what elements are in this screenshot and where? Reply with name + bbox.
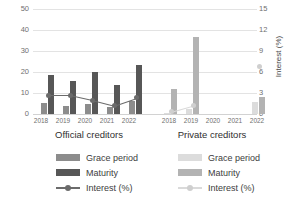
y-axis-left-tick-20: 20 <box>9 68 29 76</box>
bar-grace-official-2018 <box>41 103 47 114</box>
gridline-30 <box>33 51 257 52</box>
legend-swatch-maturity-official <box>56 169 80 176</box>
gridline-40 <box>33 30 257 31</box>
interest-marker-official-2019 <box>68 93 73 98</box>
legend-item-maturity-private[interactable]: Maturity <box>178 165 260 180</box>
legend-swatch-interest-private <box>178 184 202 191</box>
y-axis-left-tick-40: 40 <box>9 26 29 34</box>
bar-maturity-official-2022 <box>136 65 142 114</box>
interest-marker-official-2021 <box>112 103 117 108</box>
bar-maturity-official-2020 <box>92 72 98 114</box>
legend-swatch-grace-official <box>56 154 80 161</box>
interest-marker-official-2020 <box>90 98 95 103</box>
bar-grace-official-2022 <box>129 101 135 114</box>
y-axis-left-tick-30: 30 <box>9 47 29 55</box>
y-axis-left-tick-0: 0 <box>9 110 29 118</box>
legend-swatch-interest-official <box>56 184 80 191</box>
legend-label-grace-official: Grace period <box>86 153 138 163</box>
legend-item-grace-official[interactable]: Grace period <box>56 150 138 165</box>
interest-marker-official-2022 <box>134 95 139 100</box>
legend-private: Grace period Maturity Interest (%) <box>178 150 260 195</box>
gridline-baseline-0 <box>33 114 257 115</box>
legend-label-interest-official: Interest (%) <box>86 183 133 193</box>
gridline-20 <box>33 72 257 73</box>
legend-item-interest-official[interactable]: Interest (%) <box>56 180 138 195</box>
interest-marker-private-2022 <box>257 64 262 69</box>
group-title-private: Private creditors <box>152 129 272 140</box>
bar-grace-private-2019 <box>186 109 192 114</box>
interest-line-segment-official-0 <box>48 95 70 96</box>
x-tick-official-2022: 2022 <box>116 117 142 125</box>
legend-official: Grace period Maturity Interest (%) <box>56 150 138 195</box>
gridline-10 <box>33 93 257 94</box>
interest-marker-private-2019 <box>191 103 196 108</box>
legend-label-grace-private: Grace period <box>208 153 260 163</box>
bar-maturity-private-2022 <box>259 97 265 114</box>
legend-item-maturity-official[interactable]: Maturity <box>56 165 138 180</box>
legend-label-interest-private: Interest (%) <box>208 183 255 193</box>
bar-grace-official-2021 <box>107 107 113 114</box>
bar-grace-official-2019 <box>63 106 69 114</box>
legend-swatch-grace-private <box>178 154 202 161</box>
legend-label-maturity-private: Maturity <box>208 168 240 178</box>
legend-item-interest-private[interactable]: Interest (%) <box>178 180 260 195</box>
legend-swatch-maturity-private <box>178 169 202 176</box>
bar-grace-private-2022 <box>252 102 258 114</box>
y-axis-right-tick-3: 3 <box>259 89 279 97</box>
group-title-official: Official creditors <box>24 129 154 140</box>
legend-item-grace-private[interactable]: Grace period <box>178 150 260 165</box>
y-axis-right-title: Interest (%) <box>274 36 283 77</box>
gridline-50 <box>33 9 257 10</box>
y-axis-left-tick-50: 50 <box>9 5 29 13</box>
x-tick-private-2022: 2022 <box>244 117 270 125</box>
legend-label-maturity-official: Maturity <box>86 168 118 178</box>
y-axis-right-tick-15: 15 <box>259 5 279 13</box>
plot-area <box>33 9 257 114</box>
interest-marker-private-2018 <box>169 109 174 114</box>
y-axis-right-tick-12: 12 <box>259 26 279 34</box>
interest-marker-official-2018 <box>46 93 51 98</box>
chart-figure: 50 40 30 20 10 0 15 12 9 6 3 0 Years Int… <box>0 0 296 199</box>
y-axis-left-tick-10: 10 <box>9 89 29 97</box>
bar-maturity-official-2021 <box>114 85 120 114</box>
bar-grace-official-2020 <box>85 104 91 114</box>
